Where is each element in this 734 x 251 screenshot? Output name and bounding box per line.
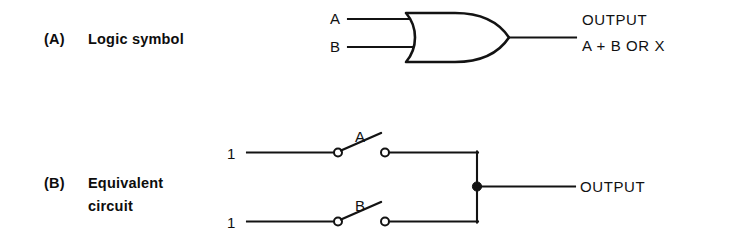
- or-gate-figure: (A) Logic symbol A B OUTPUT A + B OR X (…: [0, 0, 734, 251]
- circuit-output-label: OUTPUT: [580, 178, 645, 195]
- panel-a-caption-index: (A): [44, 31, 65, 47]
- branch-b-source-label: 1: [227, 214, 236, 231]
- gate-input-a-label: A: [330, 10, 340, 27]
- branch-a-source-label: 1: [227, 145, 236, 162]
- figure-canvas: (A) Logic symbol A B OUTPUT A + B OR X (…: [0, 0, 734, 251]
- panel-a-caption-text: Logic symbol: [88, 31, 184, 47]
- branch-a-switch-label: A: [355, 128, 365, 145]
- branch-b-switch-label: B: [355, 197, 365, 214]
- panel-b-caption-index: (B): [44, 175, 65, 191]
- or-gate-symbol: [406, 13, 509, 62]
- panel-b-caption-line1: Equivalent: [88, 175, 163, 191]
- branch-a-right-contact: [381, 149, 389, 157]
- panel-a-group: (A) Logic symbol A B OUTPUT A + B OR X: [44, 10, 665, 62]
- gate-input-b-label: B: [330, 38, 340, 55]
- branch-b-right-contact: [381, 218, 389, 226]
- panel-b-group: (B) Equivalent circuit 1 A 1 B: [44, 128, 645, 231]
- panel-b-caption-line2: circuit: [88, 198, 133, 214]
- gate-output-expression: A + B OR X: [582, 37, 665, 54]
- gate-output-label: OUTPUT: [582, 11, 647, 28]
